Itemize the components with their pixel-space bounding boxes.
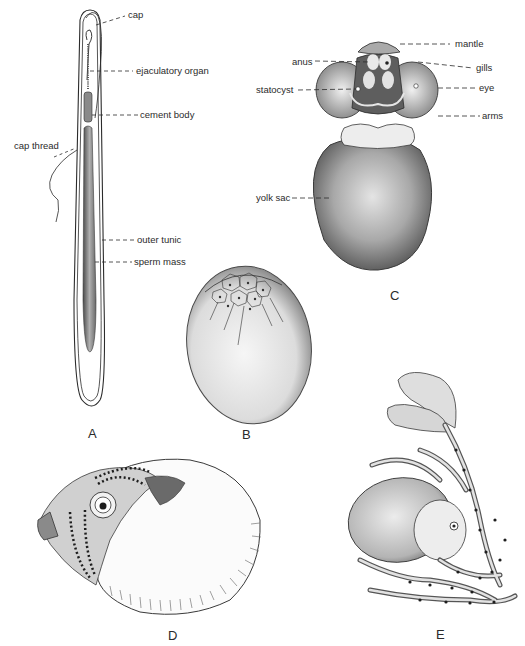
label-mantle: mantle xyxy=(455,38,484,49)
illustration-plate xyxy=(0,0,525,646)
label-ejaculatory-organ: ejaculatory organ xyxy=(136,65,209,76)
figure-letter-a: A xyxy=(88,426,97,441)
figure-c-embryo xyxy=(292,42,480,270)
label-statocyst: statocyst xyxy=(256,84,294,95)
figure-letter-b: B xyxy=(242,427,251,442)
label-outer-tunic: outer tunic xyxy=(137,234,181,245)
label-anus: anus xyxy=(292,56,313,67)
label-gills: gills xyxy=(476,62,492,73)
label-cement-body: cement body xyxy=(140,109,194,120)
label-cap-thread: cap thread xyxy=(14,140,59,151)
label-yolk-sac: yolk sac xyxy=(256,192,290,203)
figure-a-spermatophore xyxy=(50,10,138,406)
label-eye: eye xyxy=(479,82,494,93)
figure-e-hatchling xyxy=(341,372,515,604)
label-arms: arms xyxy=(482,110,503,121)
figure-letter-e: E xyxy=(436,627,445,642)
figure-letter-c: C xyxy=(390,288,399,303)
figure-b-egg xyxy=(177,258,322,432)
figure-d-shell xyxy=(38,459,261,614)
label-sperm-mass: sperm mass xyxy=(134,256,186,267)
label-cap: cap xyxy=(128,9,143,20)
figure-letter-d: D xyxy=(168,628,177,643)
